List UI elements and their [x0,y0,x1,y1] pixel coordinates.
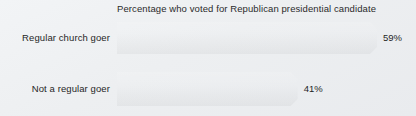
bar-row: Regular church goer 59% [0,22,416,54]
bar-sheen [117,72,298,106]
bar-row: Not a regular goer 41% [0,72,416,106]
bar-fill[interactable] [117,22,377,54]
bar-track [117,22,377,54]
bar-fill[interactable] [117,72,298,106]
bar-chart: Percentage who voted for Republican pres… [0,0,416,116]
bar-sheen [117,22,377,54]
bar-value-label: 59% [383,32,402,44]
bar-track [117,72,298,106]
bar-value-label: 41% [304,83,323,95]
bar-category-label: Not a regular goer [0,83,110,95]
bar-category-label: Regular church goer [0,32,110,44]
chart-title: Percentage who voted for Republican pres… [117,3,413,15]
